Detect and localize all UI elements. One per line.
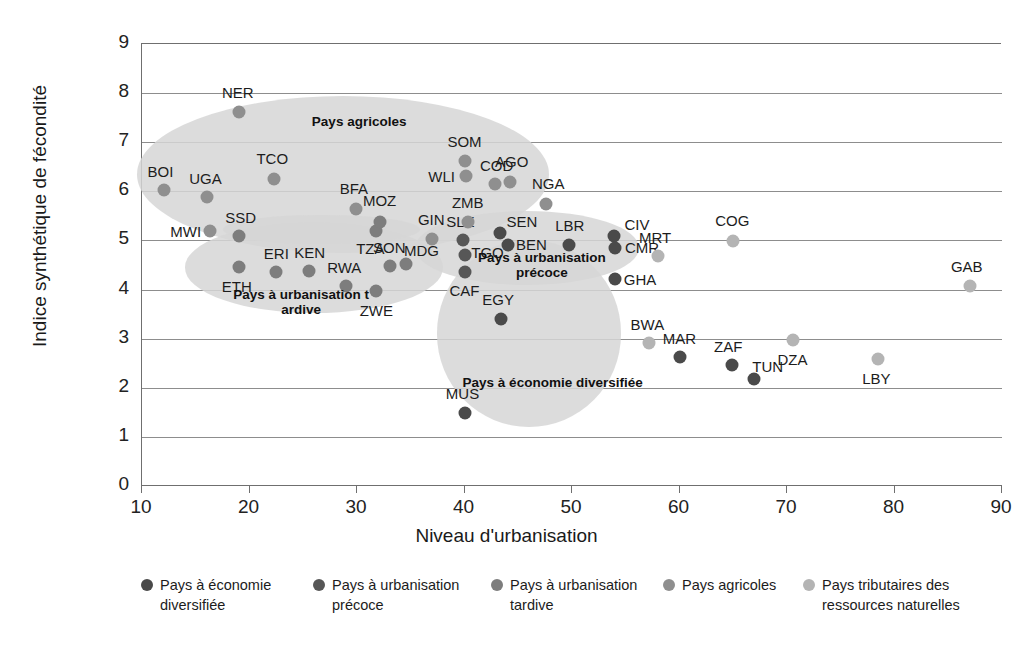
legend-item[interactable]: Pays à urbanisation tardive — [491, 576, 663, 615]
y-tick-label: 6 — [89, 178, 129, 200]
scatter-point[interactable] — [673, 351, 686, 364]
legend-marker-icon — [313, 579, 325, 591]
scatter-point[interactable] — [232, 261, 245, 274]
scatter-point[interactable] — [609, 272, 622, 285]
scatter-point-label: GIN — [418, 211, 445, 228]
figure-root: 0123456789 MUSEGYMARZAFTUNSENBENLBRCIVCM… — [0, 0, 1013, 645]
cluster-annotation-label: Pays à économie diversifiée — [463, 375, 643, 391]
scatter-point[interactable] — [726, 359, 739, 372]
legend-label: Pays tributaires des ressources naturell… — [822, 576, 960, 615]
scatter-point-label: EGY — [482, 291, 514, 308]
scatter-point[interactable] — [400, 257, 413, 270]
y-tick-label: 5 — [89, 227, 129, 249]
gridline — [142, 339, 1002, 340]
scatter-point[interactable] — [607, 229, 620, 242]
scatter-point[interactable] — [458, 407, 471, 420]
legend-item[interactable]: Pays agricoles — [663, 576, 803, 596]
scatter-point[interactable] — [540, 197, 553, 210]
scatter-point[interactable] — [609, 241, 622, 254]
scatter-point-label: RWA — [327, 258, 361, 275]
scatter-point[interactable] — [727, 235, 740, 248]
y-tick-label: 0 — [89, 473, 129, 495]
scatter-point-label: LBR — [555, 217, 584, 234]
legend-label: Pays à économie diversifiée — [160, 576, 271, 615]
scatter-point[interactable] — [373, 215, 386, 228]
scatter-point-label: WLI — [428, 167, 455, 184]
gridline — [142, 191, 1002, 192]
legend-item[interactable]: Pays tributaires des ressources naturell… — [803, 576, 1001, 615]
x-tick-mark — [464, 485, 465, 493]
scatter-point[interactable] — [503, 176, 516, 189]
scatter-point[interactable] — [200, 191, 213, 204]
scatter-point[interactable] — [157, 184, 170, 197]
scatter-point-label: SOM — [447, 132, 481, 149]
legend-item[interactable]: Pays à économie diversifiée — [141, 576, 313, 615]
scatter-point-label: ZAF — [714, 338, 742, 355]
x-tick-mark — [249, 485, 250, 493]
cluster-annotation-label: Pays agricoles — [312, 114, 407, 130]
plot-area: MUSEGYMARZAFTUNSENBENLBRCIVCMRGHASLETGOC… — [141, 43, 1001, 485]
legend-marker-icon — [141, 579, 153, 591]
scatter-point[interactable] — [268, 173, 281, 186]
x-tick-mark — [356, 485, 357, 493]
scatter-point[interactable] — [232, 229, 245, 242]
y-tick-label: 2 — [89, 375, 129, 397]
legend-label: Pays à urbanisation précoce — [332, 576, 459, 615]
y-tick-label: 4 — [89, 277, 129, 299]
scatter-point[interactable] — [461, 215, 474, 228]
scatter-point[interactable] — [203, 224, 216, 237]
scatter-point-label: UGA — [189, 170, 222, 187]
scatter-point-label: BWA — [631, 315, 665, 332]
scatter-point[interactable] — [495, 313, 508, 326]
scatter-point[interactable] — [384, 259, 397, 272]
scatter-point-label: ZMB — [452, 193, 484, 210]
scatter-point[interactable] — [652, 250, 665, 263]
scatter-point[interactable] — [872, 353, 885, 366]
y-tick-label: 1 — [89, 424, 129, 446]
x-tick-label: 80 — [883, 496, 904, 518]
scatter-point[interactable] — [457, 234, 470, 247]
gridline — [142, 142, 1002, 143]
scatter-point[interactable] — [458, 266, 471, 279]
scatter-point-label: CAF — [450, 282, 480, 299]
scatter-point[interactable] — [963, 279, 976, 292]
y-tick-label: 3 — [89, 326, 129, 348]
scatter-point[interactable] — [370, 284, 383, 297]
scatter-point[interactable] — [302, 264, 315, 277]
scatter-point[interactable] — [787, 334, 800, 347]
scatter-point[interactable] — [232, 105, 245, 118]
scatter-point-label: MRT — [639, 229, 671, 246]
x-tick-label: 60 — [668, 496, 689, 518]
scatter-point[interactable] — [458, 249, 471, 262]
scatter-point-label: SEN — [507, 213, 538, 230]
x-tick-label: 10 — [130, 496, 151, 518]
scatter-point[interactable] — [458, 154, 471, 167]
scatter-point[interactable] — [459, 169, 472, 182]
scatter-point-label: MWI — [170, 222, 201, 239]
y-axis-title: Indice synthétique de fécondité — [29, 6, 51, 426]
scatter-point-label: ERI — [264, 245, 289, 262]
legend-item[interactable]: Pays à urbanisation précoce — [313, 576, 491, 615]
x-tick-mark — [141, 485, 142, 493]
legend-label: Pays agricoles — [682, 576, 776, 596]
scatter-point-label: KEN — [294, 243, 325, 260]
scatter-point[interactable] — [270, 266, 283, 279]
scatter-point-label: SON — [373, 238, 406, 255]
scatter-point[interactable] — [643, 336, 656, 349]
scatter-point[interactable] — [488, 177, 501, 190]
gridline — [142, 437, 1002, 438]
cluster-annotation-label: Pays à urbanisation t ardive — [233, 287, 369, 318]
x-tick-mark — [1001, 485, 1002, 493]
y-tick-label: 8 — [89, 80, 129, 102]
scatter-point[interactable] — [349, 202, 362, 215]
y-tick-label: 7 — [89, 129, 129, 151]
x-tick-label: 40 — [453, 496, 474, 518]
scatter-point-label: NGA — [532, 174, 565, 191]
x-axis-title: Niveau d'urbanisation — [0, 525, 1013, 547]
x-tick-mark — [679, 485, 680, 493]
x-tick-mark — [894, 485, 895, 493]
scatter-point-label: SSD — [225, 208, 256, 225]
scatter-point-label: GHA — [624, 270, 657, 287]
scatter-point[interactable] — [493, 227, 506, 240]
scatter-point[interactable] — [426, 233, 439, 246]
